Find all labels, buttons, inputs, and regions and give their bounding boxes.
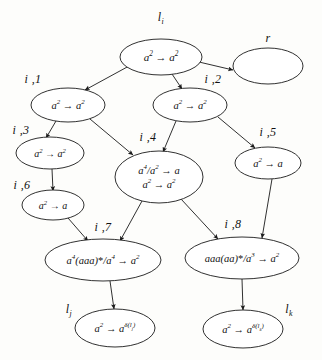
graph-edge	[52, 169, 53, 191]
node-tag-i5: i ,5	[260, 125, 277, 140]
node-tag-i2: i ,2	[205, 72, 222, 87]
node-tag-i8: i ,8	[225, 217, 242, 232]
graph-node-i8[interactable]	[185, 237, 299, 279]
node-tag-i7: i ,7	[95, 220, 112, 235]
node-tag-i4: i ,4	[140, 130, 157, 145]
node-tag-r: r	[265, 31, 270, 46]
diagram-canvas: a2 → a2lira2 → a2i ,1a2 → a2i ,2a2 → a2i…	[0, 0, 322, 360]
graph-node-i4[interactable]	[115, 151, 203, 203]
node-tag-i3: i ,3	[13, 123, 30, 138]
node-tag-root: li	[158, 10, 164, 26]
graph-edge	[199, 62, 233, 70]
graph-node-i2[interactable]	[153, 88, 227, 122]
graph-node-lk[interactable]	[203, 310, 283, 348]
graph-edge	[172, 74, 182, 89]
graph-node-i7[interactable]	[45, 239, 161, 281]
graph-edge	[163, 121, 176, 152]
graph-svg	[0, 0, 322, 360]
node-tag-lk: lk	[285, 302, 293, 318]
graph-edge	[46, 121, 56, 138]
graph-edge	[110, 281, 114, 309]
graph-edge	[90, 119, 133, 155]
graph-edge	[262, 179, 272, 238]
graph-node-lj[interactable]	[75, 309, 155, 347]
graph-node-i6[interactable]	[22, 190, 84, 220]
graph-edge	[181, 199, 218, 239]
node-tag-i6: i ,6	[14, 178, 31, 193]
graph-node-i3[interactable]	[16, 137, 84, 169]
graph-node-i5[interactable]	[235, 147, 301, 179]
graph-node-root[interactable]	[120, 39, 202, 75]
graph-node-i1[interactable]	[31, 88, 105, 122]
node-tag-i1: i ,1	[25, 72, 42, 87]
graph-edge	[85, 66, 129, 90]
graph-edge	[68, 218, 88, 241]
graph-node-r[interactable]	[233, 48, 303, 84]
graph-edge	[242, 279, 243, 310]
node-layer	[16, 39, 303, 348]
graph-edge	[218, 117, 255, 148]
graph-edge	[120, 201, 142, 241]
node-tag-lj: lj	[66, 302, 72, 318]
